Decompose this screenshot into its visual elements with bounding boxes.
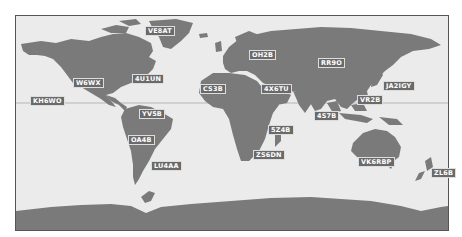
world-map-landmasses [16, 16, 448, 230]
station-label-vr2b[interactable]: VR2B [357, 95, 383, 105]
station-label-kh6wo[interactable]: KH6WO [30, 96, 65, 106]
station-label-rr9o[interactable]: RR9O [318, 58, 345, 68]
station-label-w6wx[interactable]: W6WX [73, 78, 104, 88]
station-label-zl6b[interactable]: ZL6B [431, 168, 456, 178]
station-label-ve8at[interactable]: VE8AT [145, 26, 175, 36]
station-label-zs6dn[interactable]: ZS6DN [253, 150, 285, 160]
station-label-4u1un[interactable]: 4U1UN [132, 74, 164, 84]
station-label-4x6tu[interactable]: 4X6TU [261, 84, 292, 94]
station-label-cs3b[interactable]: CS3B [200, 84, 226, 94]
station-label-oa4b[interactable]: OA4B [128, 135, 155, 145]
station-label-5z4b[interactable]: 5Z4B [268, 125, 294, 135]
station-label-4s7b[interactable]: 4S7B [314, 111, 339, 121]
station-label-ja2igy[interactable]: JA2IGY [383, 81, 415, 91]
station-label-vk6rbp[interactable]: VK6RBP [358, 157, 395, 167]
land [16, 19, 448, 230]
station-label-lu4aa[interactable]: LU4AA [151, 161, 182, 171]
world-map [15, 15, 449, 231]
station-label-yv5b[interactable]: YV5B [139, 109, 165, 119]
station-label-oh2b[interactable]: OH2B [249, 50, 276, 60]
